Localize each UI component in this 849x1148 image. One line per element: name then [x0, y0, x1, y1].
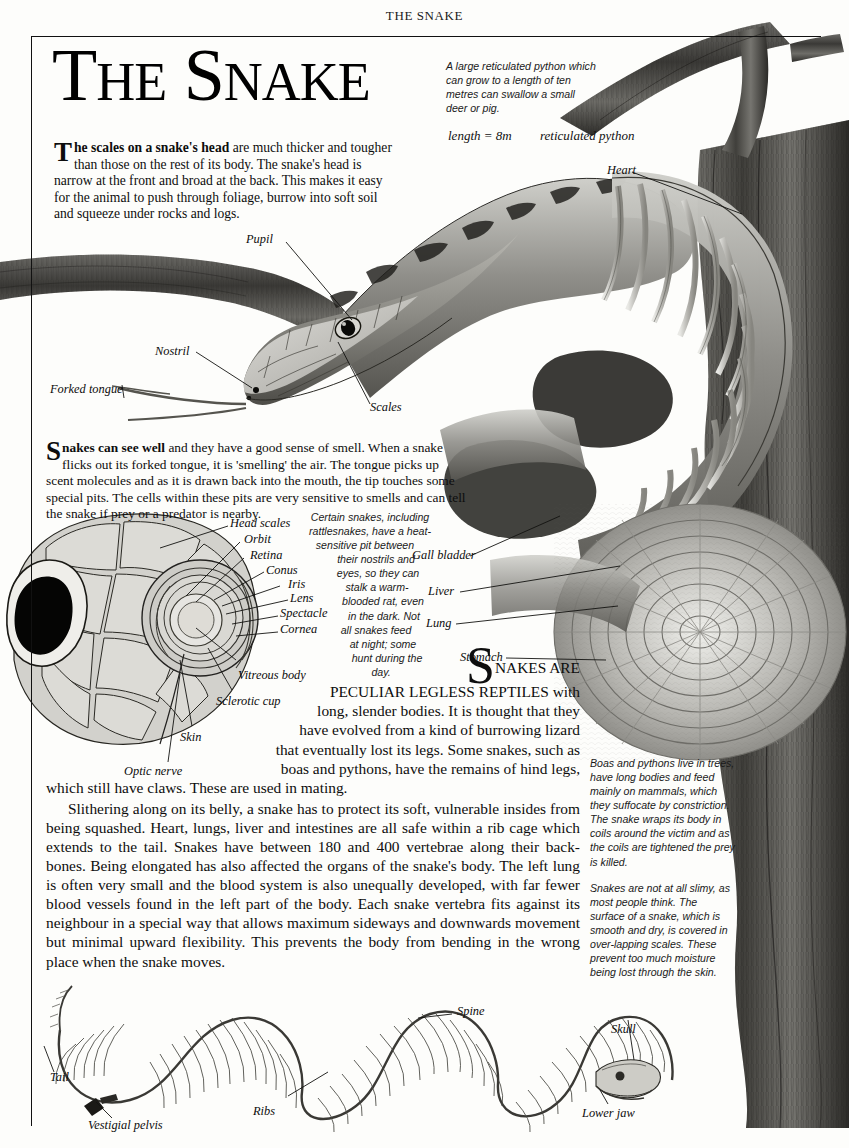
label-liver: Liver: [428, 584, 454, 599]
title-s-cap: S: [184, 34, 224, 116]
running-head: THE SNAKE: [0, 8, 849, 24]
label-iris: Iris: [288, 577, 305, 592]
senses-bold-run: nakes can see well: [62, 440, 165, 455]
running-head-text: THE SNAKE: [386, 8, 463, 23]
caption-length: length = 8m: [448, 128, 512, 144]
leader-scales: [338, 342, 370, 404]
leader-retina: [196, 558, 244, 602]
leader-conus: [214, 572, 264, 600]
leader-tail: [44, 1046, 54, 1072]
pit-line-9: all snakes feed: [306, 623, 434, 637]
page-title: THE SNAKE: [52, 38, 370, 112]
leader-lens: [226, 600, 288, 614]
leader-liver: [460, 566, 620, 592]
main-line-7: which still have claws. These are used i…: [46, 778, 580, 797]
label-conus: Conus: [266, 563, 298, 578]
organ-mass-dark: [533, 350, 673, 447]
title-he: HE: [96, 52, 166, 112]
label-skin: Skin: [180, 730, 201, 745]
main-article-text: SNAKES ARE PECULIAR LEGLESS REPTILES wit…: [46, 650, 580, 971]
leader-orbit: [186, 542, 240, 596]
tree-branch-left: [0, 254, 344, 344]
main-line-5: that eventually lost its legs. Some snak…: [46, 740, 580, 759]
label-retina: Retina: [250, 548, 282, 563]
pit-line-12: day.: [306, 665, 434, 679]
label-forked-tongue: Forked tongue: [50, 382, 123, 397]
label-lens: Lens: [290, 591, 313, 606]
lead-bold-run: he scales on a snake's head: [74, 140, 229, 155]
leader-ribs: [288, 1072, 328, 1096]
page-frame-top-rule: [31, 36, 821, 37]
leader-cornea: [236, 632, 278, 636]
leader-gall-bladder: [470, 516, 560, 556]
main-line-3: long, slender bodies. It is thought that…: [46, 701, 580, 720]
caption-boas-and-pythons: Boas and pythons live in trees, have lon…: [590, 756, 738, 869]
leader-spectacle: [232, 616, 278, 624]
pit-line-10: at night; some: [306, 637, 434, 651]
dropcap-s-senses: S: [46, 440, 62, 463]
forked-tongue: [112, 386, 246, 420]
label-scales: Scales: [370, 400, 402, 415]
leader-heart: [632, 172, 742, 214]
main-line-2: PECULIAR LEGLESS REPTILES with: [46, 682, 580, 701]
leader-lung: [456, 606, 618, 624]
label-nostril: Nostril: [155, 344, 189, 359]
caption-species-name: reticulated python: [540, 128, 634, 144]
pit-line-5: eyes, so they can: [306, 566, 434, 580]
vestigial-pelvis-bone: [84, 1098, 104, 1116]
main-paragraph-2: Slithering along on its belly, a snake h…: [46, 799, 580, 971]
main-line-4: have evolved from a kind of burrowing li…: [46, 720, 580, 739]
caption-reticulated-python: A large reticulated python which can gro…: [446, 59, 598, 115]
label-skull: Skull: [611, 1022, 636, 1037]
leader-spine: [418, 1014, 452, 1018]
dropcap-t: T: [54, 140, 74, 163]
label-orbit: Orbit: [244, 532, 271, 547]
pit-line-11: hunt during the: [306, 651, 434, 665]
snake-eye: [332, 314, 364, 342]
snake-nostril: [253, 387, 259, 393]
paragraph-scales-lead: The scales on a snake's head are much th…: [54, 140, 394, 223]
label-heart: Heart: [607, 163, 636, 178]
label-vitreous-body: Vitreous body: [238, 668, 306, 683]
leader-lower-jaw: [600, 1090, 608, 1104]
label-vestigial-pelvis: Vestigial pelvis: [88, 1118, 163, 1133]
pit-line-1: Certain snakes, including: [306, 510, 434, 524]
pit-line-2: rattlesnakes, have a heat-: [306, 524, 434, 538]
label-pupil: Pupil: [246, 232, 273, 247]
pit-line-6: stalk a warm-: [306, 580, 434, 594]
caption-heat-pit: Certain snakes, including rattlesnakes, …: [306, 510, 434, 679]
label-head-scales: Head scales: [230, 516, 290, 531]
label-lung: Lung: [426, 616, 451, 631]
label-optic-nerve: Optic nerve: [124, 764, 182, 779]
label-spine: Spine: [457, 1004, 485, 1019]
snake-coil-spiral: [554, 504, 846, 760]
leader-iris: [222, 586, 280, 606]
title-t-cap: T: [52, 34, 96, 116]
label-stomach: Stomach: [460, 650, 503, 665]
label-gall-bladder: Gall bladder: [412, 548, 476, 563]
leader-pupil: [286, 242, 352, 320]
skeleton-ribs: [56, 1014, 665, 1132]
main-line-1-text: NAKES ARE: [495, 659, 580, 676]
skeleton-skull: [596, 1060, 661, 1099]
leader-nostril: [196, 352, 252, 388]
leader-head-scales: [160, 526, 228, 548]
label-tail: Tail: [50, 1070, 69, 1085]
snake-skeleton-illustration: [50, 986, 673, 1132]
leader-vestigial-pelvis: [96, 1102, 112, 1118]
label-spectacle: Spectacle: [280, 606, 327, 621]
label-lower-jaw: Lower jaw: [582, 1106, 635, 1121]
caption-snake-skin: Snakes are not at all slimy, as most peo…: [590, 881, 730, 980]
label-sclerotic-cup: Sclerotic cup: [216, 694, 281, 709]
label-cornea: Cornea: [280, 622, 317, 637]
encyclopedia-page: THE SNAKE THE SNAKE The scales on a snak…: [0, 0, 849, 1148]
page-frame-left-rule: [31, 36, 32, 1126]
label-ribs: Ribs: [253, 1104, 275, 1119]
title-nake: NAKE: [224, 52, 370, 112]
